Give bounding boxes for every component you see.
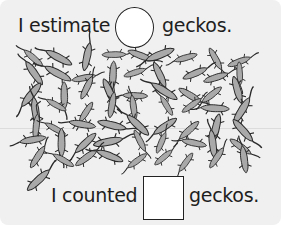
count-suffix: geckos. — [189, 184, 259, 206]
worksheet-card: I estimate geckos. I counted geckos. — [0, 0, 281, 225]
gecko-drawing — [58, 82, 71, 120]
gecko-drawing — [226, 49, 261, 71]
gecko-drawing — [152, 141, 183, 169]
estimate-answer-circle[interactable] — [115, 7, 154, 48]
gecko-drawing — [78, 30, 99, 71]
gecko-drawing — [9, 79, 46, 120]
count-answer-box[interactable] — [143, 176, 184, 220]
count-prefix: I counted — [51, 184, 137, 206]
estimate-suffix: geckos. — [162, 14, 232, 36]
gecko-drawing — [76, 65, 102, 101]
gecko-drawing — [117, 150, 149, 177]
gecko-drawing — [122, 61, 156, 81]
estimate-prefix: I estimate — [18, 14, 110, 36]
gecko-drawing — [171, 133, 208, 152]
